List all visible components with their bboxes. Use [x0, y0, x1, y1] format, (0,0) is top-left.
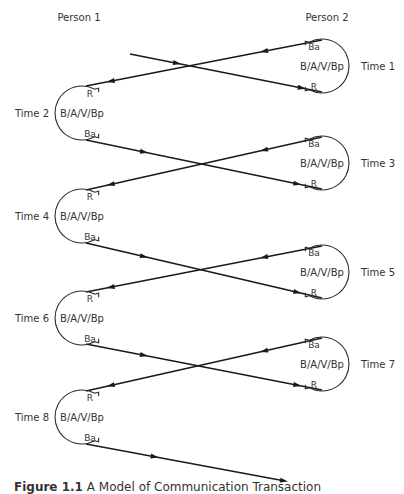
time-label: Time 4	[14, 211, 49, 222]
person-state-node: B/A/V/BpBaRTime 7	[300, 337, 395, 391]
time-label: Time 5	[360, 267, 395, 278]
person-state-node: B/A/V/BpRBaTime 6	[14, 291, 104, 345]
message-arrow	[86, 243, 322, 298]
person-state-node: B/A/V/BpBaRTime 5	[300, 245, 395, 299]
time-label: Time 8	[14, 412, 49, 423]
time-label: Time 1	[360, 61, 395, 72]
node-content-label: B/A/V/Bp	[300, 359, 344, 370]
behavior-label: Ba	[84, 129, 96, 139]
behavior-label: Ba	[308, 139, 320, 149]
time-label: Time 3	[360, 158, 395, 169]
behavior-label: Ba	[84, 334, 96, 344]
node-content-label: B/A/V/Bp	[300, 158, 344, 169]
receive-label: R	[87, 192, 93, 202]
node-content-label: B/A/V/Bp	[60, 313, 104, 324]
receive-label: R	[311, 380, 317, 390]
message-arrow	[86, 246, 322, 292]
person-state-node: B/A/V/BpRBaTime 8	[14, 390, 104, 444]
message-arrow	[86, 444, 288, 484]
figure-caption: Figure 1.1 A Model of Communication Tran…	[14, 480, 321, 494]
behavior-label: Ba	[84, 232, 96, 242]
figure-title: A Model of Communication Transaction	[87, 480, 321, 494]
node-content-label: B/A/V/Bp	[300, 267, 344, 278]
person-label-2: Person 2	[305, 12, 348, 23]
receive-label: R	[87, 89, 93, 99]
person-state-node: B/A/V/BpBaRTime 3	[300, 136, 395, 190]
figure-number: Figure 1.1	[14, 480, 83, 494]
person-state-node: B/A/V/BpRBaTime 4	[14, 189, 104, 243]
node-content-label: B/A/V/Bp	[300, 61, 344, 72]
message-arrow	[86, 40, 322, 86]
receive-label: R	[311, 288, 317, 298]
behavior-label: Ba	[308, 340, 320, 350]
time-label: Time 2	[14, 108, 49, 119]
person-label-1: Person 1	[57, 12, 100, 23]
receive-label: R	[87, 393, 93, 403]
node-content-label: B/A/V/Bp	[60, 211, 104, 222]
behavior-label: Ba	[84, 433, 96, 443]
receive-label: R	[311, 179, 317, 189]
time-label: Time 6	[14, 313, 49, 324]
receive-label: R	[311, 82, 317, 92]
receive-label: R	[87, 294, 93, 304]
node-content-label: B/A/V/Bp	[60, 412, 104, 423]
node-content-label: B/A/V/Bp	[60, 108, 104, 119]
person-state-node: B/A/V/BpBaRTime 1	[300, 39, 395, 93]
message-arrow	[130, 54, 322, 92]
person-state-node: B/A/V/BpRBaTime 2	[14, 86, 104, 140]
time-label: Time 7	[360, 359, 395, 370]
behavior-label: Ba	[308, 248, 320, 258]
behavior-label: Ba	[308, 42, 320, 52]
